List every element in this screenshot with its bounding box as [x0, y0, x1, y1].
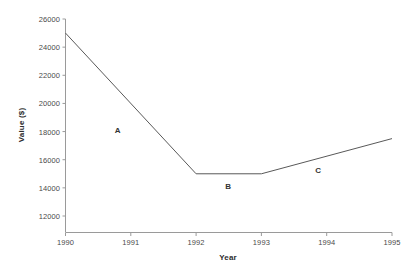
x-tick-label: 1994: [318, 238, 335, 247]
segment-label-c: C: [315, 165, 321, 174]
y-axis-title: Value ($): [17, 108, 26, 143]
y-tick-label: 16000: [28, 155, 60, 164]
x-axis-title: Year: [219, 253, 237, 262]
segment-label-b: B: [225, 182, 231, 191]
y-tick-label: 26000: [28, 15, 60, 24]
y-tick-label: 20000: [28, 99, 60, 108]
segment-label-a: A: [115, 126, 121, 135]
plot-area: [0, 0, 408, 272]
y-tick-label: 22000: [28, 71, 60, 80]
x-tick-label: 1993: [253, 238, 270, 247]
line-chart: 1200014000160001800020000220002400026000…: [0, 0, 408, 272]
x-tick-label: 1991: [122, 238, 139, 247]
x-axis-ticks: [66, 233, 393, 237]
y-tick-label: 12000: [28, 212, 60, 221]
data-series-line: [66, 33, 393, 174]
x-tick-label: 1992: [188, 238, 205, 247]
y-tick-label: 24000: [28, 43, 60, 52]
x-tick-label: 1990: [57, 238, 74, 247]
y-tick-label: 14000: [28, 183, 60, 192]
x-tick-label: 1995: [383, 238, 400, 247]
y-tick-label: 18000: [28, 127, 60, 136]
